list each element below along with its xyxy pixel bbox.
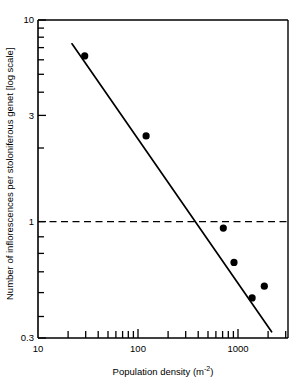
figure-container: 10 3 1 0.3 <box>0 0 301 384</box>
x-tick-label-10: 10 <box>33 343 44 354</box>
data-point <box>249 294 256 301</box>
y-tick-label-3: 3 <box>29 110 34 121</box>
x-tick-label-100: 100 <box>130 343 146 354</box>
y-tick-label-1: 1 <box>29 216 34 227</box>
x-axis-title-tail: ) <box>210 366 213 377</box>
data-point <box>230 259 237 266</box>
y-tick-label-10: 10 <box>23 14 34 25</box>
y-tick-label-0.3: 0.3 <box>21 332 34 343</box>
x-axis-title: Population density (m-2) <box>113 365 214 377</box>
x-tick-label-1000: 1000 <box>227 343 248 354</box>
x-axis-title-main: Population density (m <box>113 366 204 377</box>
data-point <box>81 52 88 59</box>
data-point <box>220 225 227 232</box>
data-point <box>261 283 268 290</box>
y-axis-title: Number of inflorescences per stolonifero… <box>4 48 15 300</box>
data-point <box>143 132 150 139</box>
plot-background <box>0 0 301 384</box>
scatter-plot: 10 3 1 0.3 <box>0 0 301 384</box>
